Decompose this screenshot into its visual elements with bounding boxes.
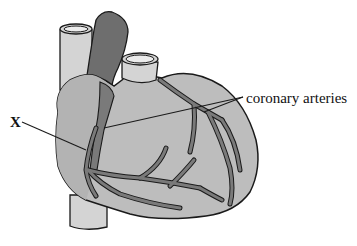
heart-body (56, 73, 258, 219)
aorta (122, 53, 158, 83)
heart-diagram: X coronary arteries (0, 0, 357, 246)
label-coronary-arteries: coronary arteries (246, 91, 347, 106)
heart-illustration (0, 0, 357, 246)
label-x: X (10, 115, 21, 130)
